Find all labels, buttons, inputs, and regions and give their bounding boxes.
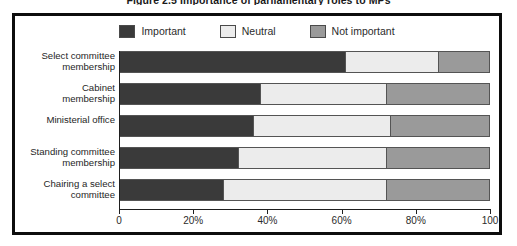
- x-axis-tick-label: 40%: [257, 215, 277, 226]
- bar-segment: [386, 179, 490, 201]
- bar-segment: [386, 147, 490, 169]
- x-axis-tick-label: 60%: [332, 215, 352, 226]
- x-axis-tick-label: 20%: [183, 215, 203, 226]
- bar-row: [119, 83, 490, 105]
- bar-segment: [386, 83, 490, 105]
- y-axis-label: Standing committee membership: [19, 147, 115, 168]
- x-axis-tick-label: 100: [482, 215, 499, 226]
- bar-row: [119, 115, 490, 137]
- plot-area: Select committee membershipCabinet membe…: [15, 16, 499, 232]
- bar-row: [119, 147, 490, 169]
- bars-region: [119, 51, 490, 209]
- bar-segment: [119, 147, 238, 169]
- x-axis-tick: [490, 209, 491, 214]
- x-axis-tick: [342, 209, 343, 214]
- bar-segment: [223, 179, 386, 201]
- chart-frame: Important Neutral Not important Select c…: [12, 13, 502, 235]
- x-axis-line: [119, 209, 491, 210]
- x-axis-tick: [416, 209, 417, 214]
- bar-segment: [238, 147, 386, 169]
- y-axis-label: Select committee membership: [19, 51, 115, 72]
- figure-caption: Figure 2.5 Importance of parliamentary r…: [0, 0, 517, 5]
- y-axis-label: Cabinet membership: [19, 83, 115, 104]
- bar-segment: [119, 83, 260, 105]
- bar-segment: [438, 51, 490, 73]
- y-axis-labels: Select committee membershipCabinet membe…: [19, 51, 115, 209]
- y-axis-label: Chairing a select committee: [19, 179, 115, 200]
- bar-segment: [253, 115, 390, 137]
- bar-segment: [119, 115, 253, 137]
- x-axis-tick-label: 0: [116, 215, 122, 226]
- x-axis-tick-label: 80%: [406, 215, 426, 226]
- bar-row: [119, 51, 490, 73]
- x-axis-tick: [119, 209, 120, 214]
- bar-row: [119, 179, 490, 201]
- bar-segment: [119, 179, 223, 201]
- x-axis-tick: [267, 209, 268, 214]
- bar-segment: [345, 51, 438, 73]
- x-axis-tick: [193, 209, 194, 214]
- y-axis-line: [119, 51, 120, 210]
- bar-segment: [260, 83, 386, 105]
- y-axis-label: Ministerial office: [19, 115, 115, 126]
- bar-segment: [119, 51, 345, 73]
- bar-segment: [390, 115, 490, 137]
